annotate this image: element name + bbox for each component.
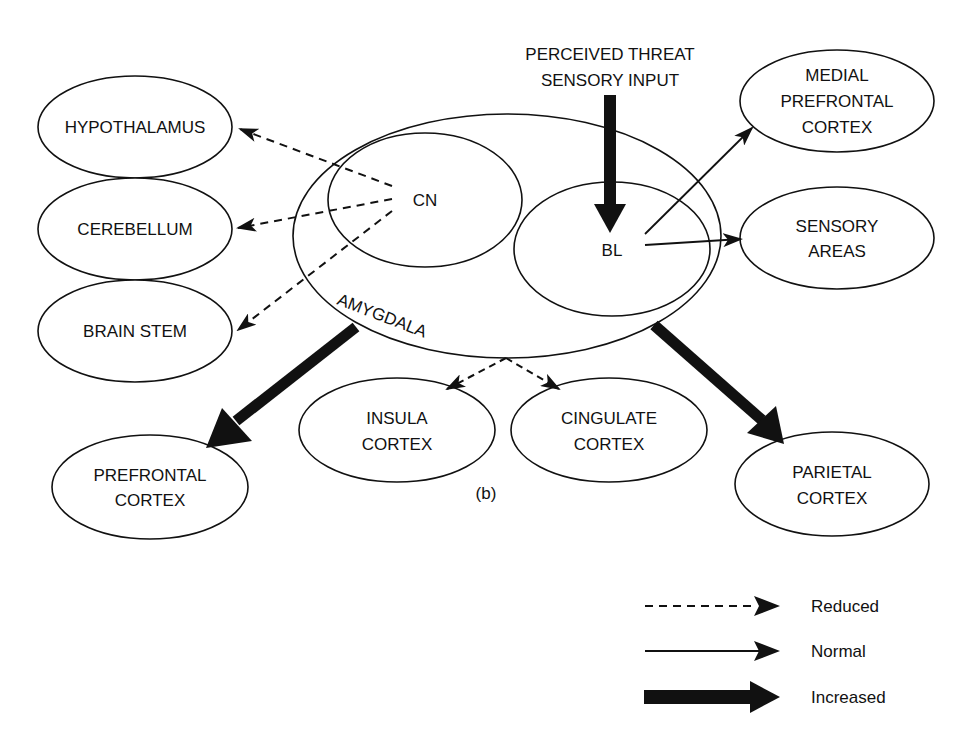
node-prefrontal-cortex: PREFRONTAL CORTEX (52, 435, 248, 539)
node-cerebellum: CEREBELLUM (38, 178, 232, 280)
svg-text:HYPOTHALAMUS: HYPOTHALAMUS (65, 118, 206, 137)
legend-increased: Increased (644, 681, 886, 713)
node-cingulate-cortex: CINGULATE CORTEX (511, 378, 707, 482)
cn-label: CN (413, 191, 438, 210)
legend-normal: Normal (645, 641, 866, 661)
normal-arrows-bl (645, 128, 752, 245)
svg-text:PREFRONTAL: PREFRONTAL (93, 466, 206, 485)
svg-text:CORTEX: CORTEX (574, 435, 645, 454)
node-parietal-cortex: PARIETAL CORTEX (735, 432, 929, 536)
figure-caption: (b) (476, 484, 497, 503)
svg-text:SENSORY: SENSORY (796, 217, 879, 236)
node-medial-prefrontal-cortex: MEDIAL PREFRONTAL CORTEX (740, 50, 934, 152)
svg-text:INSULA: INSULA (366, 409, 428, 428)
legend: Reduced Normal Increased (644, 596, 886, 713)
svg-text:CORTEX: CORTEX (797, 489, 868, 508)
svg-text:CEREBELLUM: CEREBELLUM (77, 220, 192, 239)
svg-text:Normal: Normal (811, 642, 866, 661)
svg-text:BRAIN STEM: BRAIN STEM (83, 322, 187, 341)
bl-label: BL (602, 241, 623, 260)
node-hypothalamus: HYPOTHALAMUS (38, 76, 232, 178)
input-label-line2: SENSORY INPUT (541, 71, 679, 90)
svg-text:CORTEX: CORTEX (802, 118, 873, 137)
svg-text:CORTEX: CORTEX (115, 491, 186, 510)
svg-text:Increased: Increased (811, 688, 886, 707)
svg-text:PARIETAL: PARIETAL (792, 463, 872, 482)
svg-text:MEDIAL: MEDIAL (805, 66, 868, 85)
node-insula-cortex: INSULA CORTEX (299, 378, 495, 482)
svg-text:Reduced: Reduced (811, 597, 879, 616)
input-label-line1: PERCEIVED THREAT (525, 45, 694, 64)
node-sensory-areas: SENSORY AREAS (740, 187, 934, 289)
arrow-input-to-bl (594, 95, 626, 233)
svg-text:CORTEX: CORTEX (362, 435, 433, 454)
reduced-arrows-bottom (447, 358, 559, 389)
amygdala-diagram: CN BL AMYGDALA HYPOTHALAMUS CEREBELLUM B… (0, 0, 972, 742)
legend-reduced: Reduced (645, 596, 879, 616)
svg-text:AREAS: AREAS (808, 242, 866, 261)
svg-text:CINGULATE: CINGULATE (561, 409, 657, 428)
node-brain-stem: BRAIN STEM (38, 280, 232, 382)
svg-text:PREFRONTAL: PREFRONTAL (780, 92, 893, 111)
